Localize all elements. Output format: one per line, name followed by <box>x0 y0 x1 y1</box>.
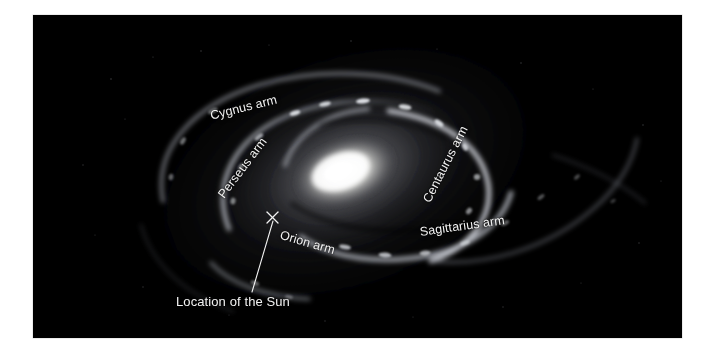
milky-way-figure: Cygnus arm Perseus arm Centaurus arm Sag… <box>0 0 713 353</box>
label-location-of-the-sun: Location of the Sun <box>176 295 290 308</box>
galaxy-photograph <box>33 15 682 338</box>
galaxy-artwork <box>33 15 682 338</box>
